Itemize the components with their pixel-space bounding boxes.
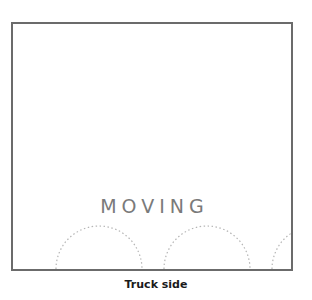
middle-wheel-arch-icon xyxy=(164,226,250,269)
wheel-arches xyxy=(13,24,291,269)
rear-wheel-arch-icon xyxy=(272,226,291,269)
truck-side-panel: MOVING xyxy=(11,22,293,271)
caption: Truck side xyxy=(0,278,312,292)
front-wheel-arch-icon xyxy=(56,226,142,269)
moving-label: MOVING xyxy=(13,195,291,217)
